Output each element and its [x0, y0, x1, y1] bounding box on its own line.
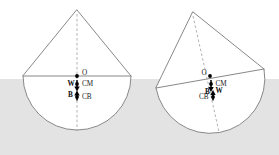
point-cb-label: CB — [82, 93, 92, 101]
figure-container: O CM W CB B — [0, 0, 279, 155]
weight-vector-label: W — [216, 87, 224, 95]
point-o-label: O — [82, 69, 87, 77]
buoyancy-vector-label: B — [205, 88, 210, 96]
point-o-marker — [75, 74, 79, 78]
point-o-label: O — [202, 69, 207, 77]
upright-body: O CM W CB B — [23, 10, 131, 131]
heeled-body-fill — [156, 12, 265, 133]
buoyancy-vector-label: B — [68, 91, 73, 99]
point-o-marker — [208, 74, 212, 78]
heeled-body: O CM W CB B — [156, 12, 265, 133]
weight-vector-label: W — [68, 80, 76, 88]
physics-diagram: O CM W CB B — [0, 0, 279, 155]
point-cm-label: CM — [82, 80, 94, 88]
